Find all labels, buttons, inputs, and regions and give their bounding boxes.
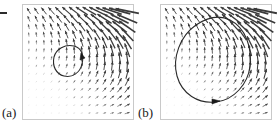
panel-b-limit-cycle <box>160 4 272 120</box>
y-axis-tick <box>0 12 7 14</box>
panel-b-label: (b) <box>138 106 153 119</box>
panel-b <box>160 4 272 120</box>
panel-a <box>22 4 134 120</box>
orbit-path-a <box>53 46 82 77</box>
figure-container: (a) (b) <box>0 0 277 135</box>
orbit-path-b <box>176 17 251 102</box>
panel-a-label: (a) <box>2 106 16 119</box>
orbit-arrowhead-b <box>212 99 220 104</box>
panel-a-limit-cycle <box>22 4 134 120</box>
